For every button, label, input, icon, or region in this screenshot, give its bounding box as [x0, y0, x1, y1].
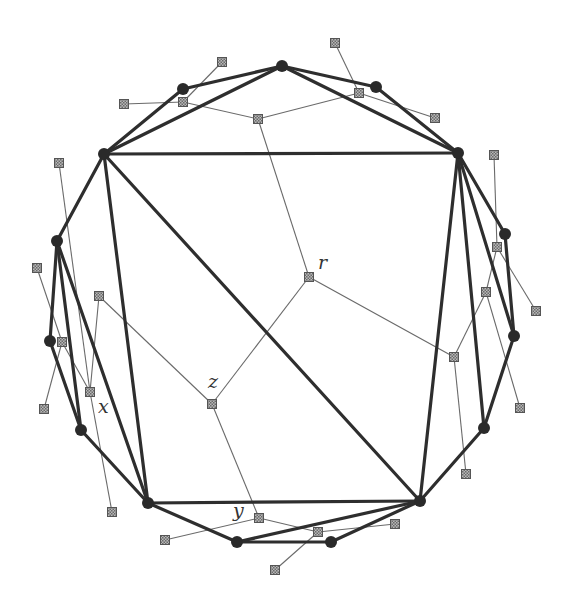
edge-H-I [420, 428, 484, 501]
vertex-I [414, 495, 426, 507]
dual-edge-s10-s11 [494, 155, 497, 247]
dual-node-s16 [86, 388, 95, 397]
edge-A-C [104, 66, 282, 154]
dual-edge-y-s22 [165, 518, 259, 540]
vertex-N [44, 335, 56, 347]
dual-edge-z-s15 [99, 296, 212, 404]
vertex-D [370, 81, 382, 93]
dual-node-s22 [161, 536, 170, 545]
edge-O-M [57, 241, 81, 430]
dual-edge-s16-s20 [59, 163, 90, 392]
edge-I-J [331, 501, 420, 542]
vertex-G [508, 330, 520, 342]
polygon-vertices [44, 60, 520, 548]
dual-node-s19 [40, 405, 49, 414]
dual-node-s21 [108, 508, 117, 517]
vertex-O [51, 235, 63, 247]
vertex-H [478, 422, 490, 434]
triangulation-edges [50, 66, 514, 542]
dual-edge-s2-s4 [124, 102, 183, 104]
label-y: y [232, 499, 244, 521]
edge-G-H [484, 336, 514, 428]
dual-node-s3 [355, 89, 364, 98]
vertex-L [142, 497, 154, 509]
vertex-J [325, 536, 337, 548]
dual-node-s8 [450, 353, 459, 362]
edge-B-C [183, 66, 282, 89]
dual-edge-s9-s13 [486, 292, 520, 408]
edge-A-L [104, 154, 148, 503]
dual-node-y [255, 514, 264, 523]
vertex-B [177, 83, 189, 95]
edge-C-D [282, 66, 376, 87]
dual-node-s15 [95, 292, 104, 301]
dual-edge-s8-s9 [454, 292, 486, 357]
dual-node-s1 [254, 115, 263, 124]
dual-node-s7 [431, 114, 440, 123]
dual-edge-s23-s25 [275, 532, 318, 570]
dual-node-s9 [482, 288, 491, 297]
dual-node-s13 [516, 404, 525, 413]
dual-edge-r-s8 [309, 277, 454, 357]
dual-node-s17 [58, 338, 67, 347]
dual-node-s10 [493, 243, 502, 252]
dual-node-s11 [490, 151, 499, 160]
dual-node-s23 [314, 528, 323, 537]
dual-edge-r-s1 [258, 119, 309, 277]
dual-node-s20 [55, 159, 64, 168]
edge-O-L [57, 241, 148, 503]
triangulation-diagram: r z x y [0, 0, 569, 607]
dual-node-s4 [120, 100, 129, 109]
edge-C-E [282, 66, 458, 153]
edge-N-O [50, 241, 57, 341]
vertex-M [75, 424, 87, 436]
dual-edge-s3-s6 [335, 43, 359, 93]
dual-node-s5 [218, 58, 227, 67]
dual-node-s25 [271, 566, 280, 575]
vertex-K [231, 536, 243, 548]
dual-node-s14 [462, 470, 471, 479]
dual-node-s24 [391, 520, 400, 529]
label-r: r [318, 251, 329, 273]
label-z: z [207, 370, 219, 392]
edge-L-M [81, 430, 148, 503]
edge-A-E [104, 153, 458, 154]
vertex-C [276, 60, 288, 72]
dual-edge-r-z [212, 277, 309, 404]
dual-node-s2 [179, 98, 188, 107]
dual-node-r [305, 273, 314, 282]
dual-node-s12 [532, 307, 541, 316]
dual-node-s18 [33, 264, 42, 273]
dual-node-s6 [331, 39, 340, 48]
vertex-E [452, 147, 464, 159]
vertex-F [499, 228, 511, 240]
edge-L-I [148, 501, 420, 503]
label-x: x [98, 395, 109, 417]
edge-E-I [420, 153, 458, 501]
edge-A-I [104, 154, 420, 501]
dual-node-z [208, 400, 217, 409]
vertex-A [98, 148, 110, 160]
dual-tree-edges [37, 43, 536, 570]
